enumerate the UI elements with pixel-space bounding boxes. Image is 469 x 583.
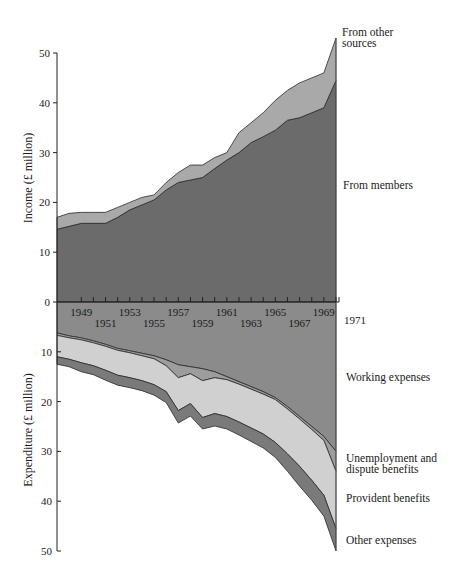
svg-text:50: 50 <box>41 545 53 557</box>
svg-text:30: 30 <box>39 147 51 159</box>
label-from-members: From members <box>343 180 413 191</box>
svg-text:1955: 1955 <box>143 317 166 329</box>
label-unemployment-dispute-benefits: Unemployment and dispute benefits <box>346 453 437 475</box>
income-axis-title: Income (£ million) <box>21 133 35 224</box>
svg-text:1967: 1967 <box>289 317 312 329</box>
svg-text:1971: 1971 <box>344 314 366 326</box>
svg-text:10: 10 <box>39 246 51 258</box>
svg-text:40: 40 <box>39 97 51 109</box>
income-areas <box>57 38 336 302</box>
expenditure-axis-title: Expenditure (£ million) <box>21 373 35 486</box>
svg-text:20: 20 <box>41 396 53 408</box>
svg-text:10: 10 <box>41 346 53 358</box>
svg-text:1953: 1953 <box>119 306 142 318</box>
svg-text:20: 20 <box>39 196 51 208</box>
svg-text:50: 50 <box>39 47 51 59</box>
svg-text:1951: 1951 <box>95 317 117 329</box>
label-from-other-sources: From other sources <box>342 27 393 49</box>
label-working-expenses: Working expenses <box>346 372 430 383</box>
label-provident-benefits: Provident benefits <box>346 493 430 504</box>
svg-text:40: 40 <box>41 495 53 507</box>
label-other-expenses: Other expenses <box>346 535 417 546</box>
svg-text:1959: 1959 <box>192 317 215 329</box>
svg-text:1957: 1957 <box>167 306 190 318</box>
svg-text:1969: 1969 <box>313 306 336 318</box>
svg-text:0: 0 <box>45 296 51 308</box>
expenditure-areas <box>57 302 336 551</box>
svg-text:30: 30 <box>41 445 53 457</box>
svg-text:1965: 1965 <box>264 306 287 318</box>
svg-text:1949: 1949 <box>70 306 93 318</box>
svg-text:1963: 1963 <box>240 317 263 329</box>
svg-text:1961: 1961 <box>216 306 238 318</box>
